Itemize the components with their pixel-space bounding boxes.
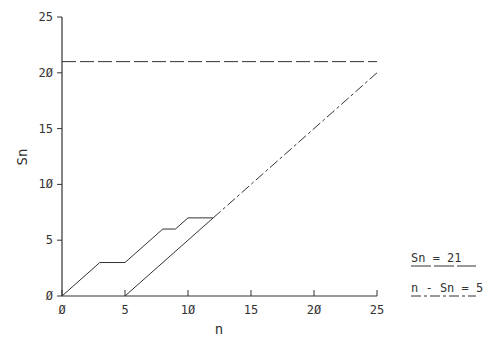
- y-tick-label: 2Ø: [39, 66, 54, 80]
- series-n-minus-sn-line-solid: [125, 218, 213, 296]
- x-tick-label: 5: [121, 303, 128, 317]
- y-tick-label: 25: [39, 10, 53, 24]
- series-group: [62, 62, 377, 296]
- x-tick-label: Ø: [58, 303, 66, 317]
- x-tick-label: 15: [244, 303, 258, 317]
- y-tick-label: Ø: [46, 289, 54, 303]
- legend-label: n - Sn = 5: [411, 281, 483, 295]
- x-axis-label: n: [215, 321, 223, 337]
- legend: Sn = 21n - Sn = 5: [411, 251, 483, 296]
- chart: Ø51Ø152Ø25Ø51Ø152Ø25 n Sn Sn = 21n - Sn …: [0, 0, 490, 346]
- series-n-minus-sn-line: [213, 73, 377, 218]
- y-tick-label: 15: [39, 122, 53, 136]
- x-tick-label: 1Ø: [181, 303, 196, 317]
- x-tick-label: 25: [370, 303, 384, 317]
- y-tick-label: 5: [46, 233, 53, 247]
- legend-label: Sn = 21: [411, 251, 462, 265]
- y-axis-label: Sn: [14, 149, 30, 166]
- y-tick-label: 1Ø: [39, 177, 54, 191]
- x-tick-label: 2Ø: [307, 303, 322, 317]
